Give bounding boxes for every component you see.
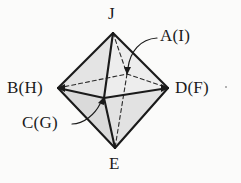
- page-speck: [225, 86, 227, 88]
- label-vertex-j: J: [108, 5, 115, 22]
- label-vertex-b: B(H): [7, 79, 43, 96]
- octahedron-figure: J E B(H) D(F) A(I) C(G): [0, 0, 241, 183]
- label-vertex-a: A(I): [160, 27, 190, 44]
- face-upper-right: [104, 33, 168, 98]
- label-vertex-e: E: [109, 155, 120, 172]
- label-vertex-c: C(G): [22, 114, 58, 131]
- label-vertex-d: D(F): [175, 79, 209, 96]
